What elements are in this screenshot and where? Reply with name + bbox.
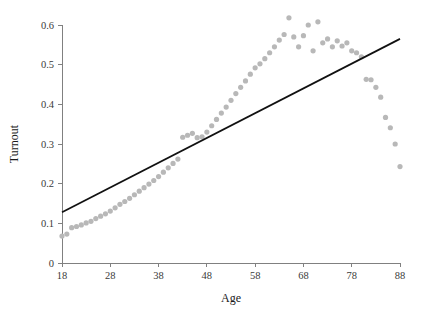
data-point — [315, 19, 320, 24]
y-axis-title: Turnout — [7, 124, 21, 163]
data-point — [243, 78, 248, 83]
data-point — [108, 208, 113, 213]
data-points-group — [59, 15, 402, 238]
data-point — [397, 164, 402, 169]
chart-figure: 182838485868788800.10.20.30.40.50.6 AgeT… — [0, 0, 422, 316]
data-point — [325, 36, 330, 41]
regression-line — [62, 39, 400, 212]
data-point — [320, 40, 325, 45]
data-point — [291, 34, 296, 39]
data-point — [127, 196, 132, 201]
y-axis-tick-label: 0.2 — [41, 178, 54, 189]
data-point — [93, 216, 98, 221]
x-axis-tick-label: 18 — [57, 270, 68, 281]
data-point — [137, 189, 142, 194]
data-point — [296, 44, 301, 49]
data-point — [339, 43, 344, 48]
data-point — [393, 141, 398, 146]
y-axis-tick-label: 0.6 — [41, 20, 54, 31]
data-point — [282, 32, 287, 37]
data-point — [79, 222, 84, 227]
data-point — [248, 72, 253, 77]
x-axis-tick-label: 78 — [346, 270, 357, 281]
x-axis-tick-label: 28 — [105, 270, 116, 281]
data-point — [330, 44, 335, 49]
data-point — [272, 44, 277, 49]
x-axis-tick-label: 38 — [153, 270, 164, 281]
data-point — [253, 65, 258, 70]
x-axis-tick-label: 48 — [202, 270, 213, 281]
data-point — [310, 48, 315, 53]
data-point — [306, 22, 311, 27]
data-point — [204, 130, 209, 135]
data-point — [84, 220, 89, 225]
data-point — [349, 48, 354, 53]
data-point — [368, 77, 373, 82]
data-point — [64, 231, 69, 236]
y-axis-tick-label: 0.3 — [41, 139, 54, 150]
data-point — [209, 123, 214, 128]
data-point — [373, 85, 378, 90]
data-point — [161, 170, 166, 175]
data-point — [98, 214, 103, 219]
data-point — [233, 91, 238, 96]
data-point — [335, 38, 340, 43]
data-point — [117, 202, 122, 207]
data-point — [180, 135, 185, 140]
data-point — [74, 224, 79, 229]
y-axis-tick-label: 0 — [49, 258, 54, 269]
y-axis-tick-label: 0.1 — [41, 218, 54, 229]
data-point — [286, 15, 291, 20]
data-point — [156, 174, 161, 179]
data-point — [219, 110, 224, 115]
data-point — [146, 181, 151, 186]
data-point — [132, 192, 137, 197]
data-point — [170, 161, 175, 166]
data-point — [88, 219, 93, 224]
data-point — [69, 225, 74, 230]
data-point — [141, 185, 146, 190]
data-point — [267, 50, 272, 55]
data-point — [301, 33, 306, 38]
scatter-plot-svg: 182838485868788800.10.20.30.40.50.6 AgeT… — [0, 0, 422, 316]
data-point — [195, 135, 200, 140]
data-point — [103, 211, 108, 216]
data-point — [364, 77, 369, 82]
data-point — [185, 133, 190, 138]
data-point — [59, 233, 64, 238]
data-point — [388, 125, 393, 130]
x-axis-title: Age — [221, 291, 241, 305]
x-axis-tick-label: 88 — [395, 270, 406, 281]
regression-line-group — [62, 39, 400, 212]
x-axis-tick-label: 68 — [298, 270, 309, 281]
data-point — [151, 178, 156, 183]
data-point — [122, 199, 127, 204]
data-point — [214, 117, 219, 122]
y-axis-tick-label: 0.4 — [41, 99, 55, 110]
data-point — [166, 165, 171, 170]
data-point — [262, 56, 267, 61]
axes-group: 182838485868788800.10.20.30.40.50.6 — [41, 20, 405, 282]
data-point — [224, 105, 229, 110]
data-point — [344, 40, 349, 45]
data-point — [113, 205, 118, 210]
data-point — [175, 156, 180, 161]
data-point — [277, 37, 282, 42]
y-axis-tick-label: 0.5 — [41, 59, 54, 70]
x-axis-tick-label: 58 — [250, 270, 261, 281]
data-point — [383, 115, 388, 120]
data-point — [378, 95, 383, 100]
data-point — [190, 131, 195, 136]
data-point — [257, 61, 262, 66]
data-point — [228, 98, 233, 103]
data-point — [238, 85, 243, 90]
data-point — [354, 50, 359, 55]
